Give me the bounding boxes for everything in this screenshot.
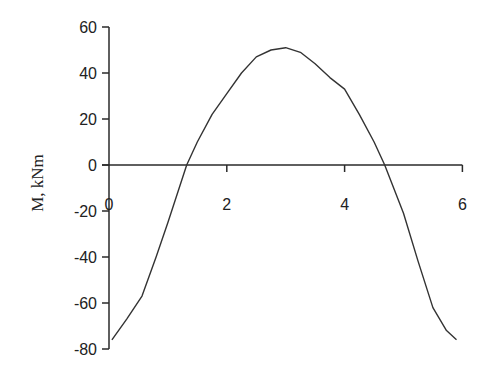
x-tick-label: 6 [458,196,467,213]
data-series [112,48,457,340]
y-tick-label: 0 [88,157,97,174]
x-axis: 0246 [102,165,467,213]
y-tick-label: -60 [74,295,97,312]
y-tick-label: 40 [79,65,97,82]
y-axis: 6040200-20-40-60-80 [74,19,109,358]
y-tick-label: -80 [74,341,97,358]
y-tick-label: -20 [74,203,97,220]
y-tick-label: 60 [79,19,97,36]
x-tick-label: 2 [222,196,231,213]
moment-line-chart: 6040200-20-40-60-80 0246 M, kNm [0,0,488,374]
x-tick-label: 4 [340,196,349,213]
y-tick-label: -40 [74,249,97,266]
series-line [112,48,457,340]
x-tick-label: 0 [105,196,114,213]
y-axis-title: M, kNm [28,154,47,212]
y-tick-label: 20 [79,111,97,128]
